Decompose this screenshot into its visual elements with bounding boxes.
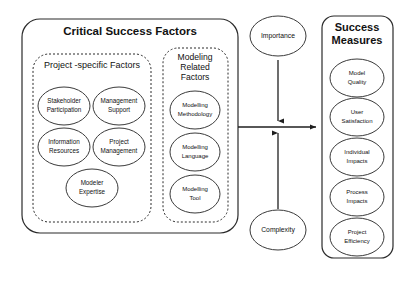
modelling-language-line1: Modelling (182, 144, 208, 150)
measures-panel-title-line1: Success (335, 21, 380, 33)
connectors (238, 60, 316, 209)
user-satisfaction-line2: Satisfaction (341, 118, 372, 124)
management-support-line2: Support (108, 106, 130, 114)
node-user-satisfaction: User Satisfaction (330, 98, 384, 136)
modeling-group-label-line2: Related (180, 62, 210, 72)
diagram-canvas: Critical Success Factors Project -specif… (0, 0, 409, 284)
modelling-tool-line1: Modelling (182, 186, 208, 192)
node-modelling-methodology: Modelling Methodology (170, 91, 220, 129)
importance-label: Importance (261, 32, 295, 40)
moderator-complexity: Complexity (250, 210, 306, 250)
modelling-methodology-line1: Modelling (182, 102, 208, 108)
management-support-line1: Management (101, 97, 138, 105)
csf-panel-title: Critical Success Factors (63, 25, 197, 37)
node-stakeholder-participation: Stakeholder Participation (38, 87, 90, 125)
stakeholder-participation-line2: Participation (47, 106, 82, 114)
measures-panel-title-line2: Measures (332, 34, 383, 46)
modelling-methodology-line2: Methodology (178, 111, 212, 117)
moderator-importance: Importance (250, 16, 306, 56)
information-resources-line2: Resources (49, 147, 79, 154)
project-efficiency-line1: Project (348, 229, 367, 235)
critical-success-factors-panel: Critical Success Factors Project -specif… (22, 19, 238, 233)
modelling-tool-line2: Tool (189, 195, 200, 201)
process-impacts-line2: Impacts (346, 198, 367, 204)
project-management-line2: Management (101, 147, 138, 155)
project-group-label: Project -specific Factors (44, 60, 141, 70)
stakeholder-participation-line1: Stakeholder (47, 97, 81, 104)
modeler-expertise-line2: Expertise (79, 188, 106, 196)
node-modeler-expertise: Modeler Expertise (66, 169, 118, 207)
model-quality-line2: Quality (348, 79, 367, 85)
user-satisfaction-line1: User (351, 109, 364, 115)
node-modelling-language: Modelling Language (170, 133, 220, 171)
node-project-efficiency: Project Efficiency (330, 218, 384, 256)
individual-impacts-line2: Impacts (346, 158, 367, 164)
information-resources-line1: Information (48, 138, 80, 145)
modeling-group-label-line3: Factors (181, 72, 210, 82)
modeler-expertise-line1: Modeler (81, 179, 104, 186)
node-management-support: Management Support (93, 87, 145, 125)
node-information-resources: Information Resources (38, 128, 90, 166)
success-measures-panel: Success Measures Model Quality User Sati… (322, 16, 393, 258)
process-impacts-line1: Process (346, 189, 368, 195)
project-management-line1: Project (109, 138, 129, 146)
node-project-management: Project Management (93, 128, 145, 166)
modelling-language-line2: Language (182, 153, 209, 159)
node-modelling-tool: Modelling Tool (170, 175, 220, 213)
node-individual-impacts: Individual Impacts (330, 138, 384, 176)
model-quality-line1: Model (349, 70, 365, 76)
node-model-quality: Model Quality (330, 59, 384, 97)
complexity-label: Complexity (261, 226, 295, 234)
modeling-group-label-line1: Modeling (178, 52, 213, 62)
project-efficiency-line2: Efficiency (344, 238, 370, 244)
node-process-impacts: Process Impacts (330, 178, 384, 216)
individual-impacts-line1: Individual (344, 149, 369, 155)
success-factors-diagram: Critical Success Factors Project -specif… (0, 0, 409, 284)
